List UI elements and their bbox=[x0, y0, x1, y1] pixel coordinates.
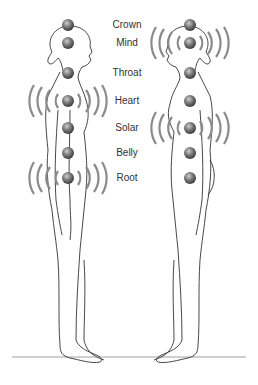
label-throat: Throat bbox=[97, 67, 157, 78]
right-figure-outline bbox=[154, 26, 214, 363]
label-root: Root bbox=[97, 172, 157, 183]
left-figure-outline bbox=[46, 26, 104, 363]
label-heart: Heart bbox=[97, 95, 157, 106]
left-chakra-dots bbox=[62, 19, 74, 184]
right-chakra-dots bbox=[184, 19, 196, 184]
label-belly: Belly bbox=[97, 147, 157, 158]
label-crown: Crown bbox=[97, 19, 157, 30]
label-mind: Mind bbox=[97, 37, 157, 48]
chakra-diagram bbox=[0, 0, 258, 385]
label-solar: Solar bbox=[97, 122, 157, 133]
vibration-waves bbox=[29, 27, 228, 194]
